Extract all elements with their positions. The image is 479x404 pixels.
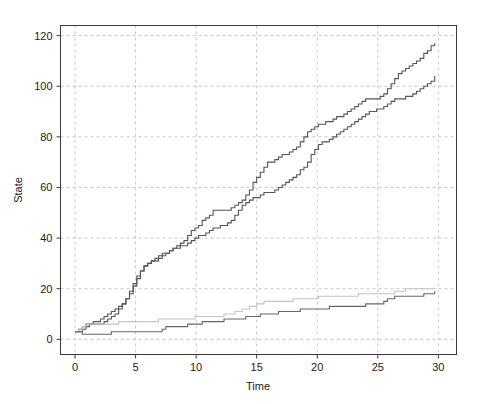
x-tick-label-10: 10 [190,361,202,373]
y-tick-label-120: 120 [34,30,52,42]
x-tick-label-25: 25 [372,361,384,373]
y-tick-label-40: 40 [40,232,52,244]
y-tick-label-100: 100 [34,80,52,92]
chart-figure: 051015202530 020406080100120 Time State [0,0,479,404]
y-axis-title: State [12,177,24,203]
x-tick-label-5: 5 [133,361,139,373]
state-vs-time-step-plot: 051015202530 020406080100120 Time State [0,0,479,404]
x-axis-title: Time [246,380,270,392]
x-tick-label-0: 0 [72,361,78,373]
y-tick-label-20: 20 [40,283,52,295]
y-tick-label-60: 60 [40,181,52,193]
x-tick-label-30: 30 [432,361,444,373]
y-tick-label-0: 0 [46,333,52,345]
chart-background [0,0,479,404]
y-tick-label-80: 80 [40,131,52,143]
x-tick-label-15: 15 [251,361,263,373]
x-tick-label-20: 20 [311,361,323,373]
